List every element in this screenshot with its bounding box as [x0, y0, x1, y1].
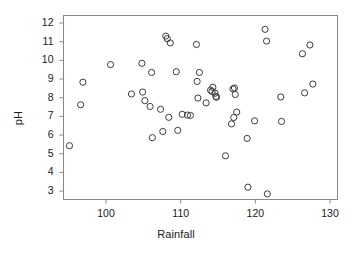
data-point: [245, 184, 251, 190]
data-point: [307, 42, 313, 48]
scatter-plot-figure: 3456789101112 100110120130 Rainfall pH: [0, 0, 352, 256]
data-point: [203, 100, 209, 106]
data-point: [195, 95, 201, 101]
data-point: [196, 69, 202, 75]
plot-frame: [64, 16, 338, 200]
y-tick-label: 4: [28, 165, 54, 177]
data-point: [66, 143, 72, 149]
data-point: [139, 60, 145, 66]
data-point: [167, 40, 173, 46]
x-tick-label: 120: [235, 207, 275, 219]
data-point: [173, 69, 179, 75]
data-point: [299, 51, 305, 57]
x-tick-label: 100: [86, 207, 126, 219]
y-tick-label: 6: [28, 128, 54, 140]
data-point: [140, 89, 146, 95]
data-point: [232, 91, 238, 97]
y-tick-label: 11: [28, 35, 54, 47]
x-tick-label: 130: [310, 207, 350, 219]
data-point: [234, 109, 240, 115]
data-point: [262, 26, 268, 32]
data-point: [222, 153, 228, 159]
data-point: [264, 191, 270, 197]
data-point: [302, 90, 308, 96]
data-point: [128, 91, 134, 97]
data-point: [194, 78, 200, 84]
y-tick-label: 3: [28, 184, 54, 196]
y-tick-label: 10: [28, 53, 54, 65]
data-point: [244, 135, 250, 141]
y-tick-label: 9: [28, 72, 54, 84]
data-point: [278, 94, 284, 100]
data-point: [252, 118, 258, 124]
data-point: [147, 103, 153, 109]
data-point: [310, 81, 316, 87]
data-point: [166, 114, 172, 120]
data-point: [107, 62, 113, 68]
y-tick-label: 8: [28, 91, 54, 103]
y-axis-title: pH: [12, 98, 24, 138]
data-point: [175, 127, 181, 133]
data-point: [157, 106, 163, 112]
data-point-markers: [66, 26, 316, 197]
data-point: [278, 118, 284, 124]
data-point: [142, 98, 148, 104]
data-point: [78, 102, 84, 108]
y-tick-label: 5: [28, 147, 54, 159]
data-point: [80, 79, 86, 85]
data-point: [160, 128, 166, 134]
x-axis-ticks: [106, 200, 330, 204]
data-point: [149, 69, 155, 75]
data-point: [228, 121, 234, 127]
y-tick-label: 12: [28, 16, 54, 28]
y-axis-ticks: [60, 23, 64, 191]
x-axis-title: Rainfall: [0, 228, 352, 240]
data-point: [193, 41, 199, 47]
data-point: [149, 135, 155, 141]
data-point: [263, 38, 269, 44]
x-tick-label: 110: [161, 207, 201, 219]
y-tick-label: 7: [28, 109, 54, 121]
